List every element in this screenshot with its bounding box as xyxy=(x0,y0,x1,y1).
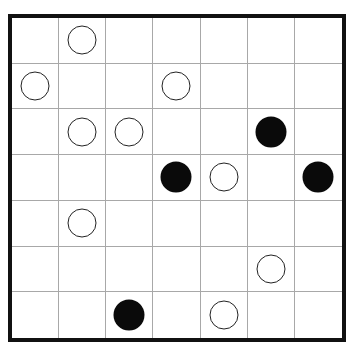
grid-cell-r5-c2[interactable] xyxy=(106,247,153,293)
white-circle-icon xyxy=(21,72,50,101)
grid-cell-r6-c6[interactable] xyxy=(295,292,342,338)
grid-cell-r5-c0[interactable] xyxy=(12,247,59,293)
grid-cell-r3-c0[interactable] xyxy=(12,155,59,201)
grid-cell-r4-c2[interactable] xyxy=(106,201,153,247)
grid-cell-r4-c6[interactable] xyxy=(295,201,342,247)
grid-cell-r5-c1[interactable] xyxy=(59,247,106,293)
grid-cell-r6-c3[interactable] xyxy=(153,292,200,338)
black-circle-icon xyxy=(255,116,286,147)
white-circle-icon xyxy=(68,26,97,55)
grid-cell-r2-c5[interactable] xyxy=(248,109,295,155)
grid-cell-r1-c5[interactable] xyxy=(248,64,295,110)
grid-cell-r1-c0[interactable] xyxy=(12,64,59,110)
grid-cell-r2-c4[interactable] xyxy=(201,109,248,155)
grid-cell-r1-c3[interactable] xyxy=(153,64,200,110)
grid-cell-r1-c1[interactable] xyxy=(59,64,106,110)
grid-cell-r1-c2[interactable] xyxy=(106,64,153,110)
black-circle-icon xyxy=(161,162,192,193)
grid-cell-r2-c3[interactable] xyxy=(153,109,200,155)
grid-cell-r1-c6[interactable] xyxy=(295,64,342,110)
grid-cell-r1-c4[interactable] xyxy=(201,64,248,110)
grid-cell-r4-c4[interactable] xyxy=(201,201,248,247)
grid-cell-r3-c4[interactable] xyxy=(201,155,248,201)
grid-cell-r3-c3[interactable] xyxy=(153,155,200,201)
white-circle-icon xyxy=(209,301,238,330)
grid-cell-r5-c3[interactable] xyxy=(153,247,200,293)
grid-cell-r0-c1[interactable] xyxy=(59,18,106,64)
grid-cell-r6-c5[interactable] xyxy=(248,292,295,338)
grid-cell-r3-c1[interactable] xyxy=(59,155,106,201)
grid-cell-r2-c0[interactable] xyxy=(12,109,59,155)
grid-cell-r6-c1[interactable] xyxy=(59,292,106,338)
grid-cell-r3-c5[interactable] xyxy=(248,155,295,201)
grid-cell-r6-c2[interactable] xyxy=(106,292,153,338)
black-circle-icon xyxy=(303,162,334,193)
grid-cell-r3-c6[interactable] xyxy=(295,155,342,201)
white-circle-icon xyxy=(68,117,97,146)
grid-cell-r0-c0[interactable] xyxy=(12,18,59,64)
white-circle-icon xyxy=(209,163,238,192)
white-circle-icon xyxy=(162,72,191,101)
grid-cell-r5-c5[interactable] xyxy=(248,247,295,293)
grid-cell-r6-c0[interactable] xyxy=(12,292,59,338)
grid-cell-r5-c6[interactable] xyxy=(295,247,342,293)
grid-cell-r2-c1[interactable] xyxy=(59,109,106,155)
white-circle-icon xyxy=(256,254,285,283)
grid-cell-r0-c5[interactable] xyxy=(248,18,295,64)
puzzle-grid xyxy=(8,14,346,342)
grid-cell-r3-c2[interactable] xyxy=(106,155,153,201)
grid-cell-r4-c5[interactable] xyxy=(248,201,295,247)
grid-cell-r4-c0[interactable] xyxy=(12,201,59,247)
grid-cell-r0-c4[interactable] xyxy=(201,18,248,64)
grid-cell-r2-c6[interactable] xyxy=(295,109,342,155)
grid-cell-r4-c3[interactable] xyxy=(153,201,200,247)
grid-cell-r2-c2[interactable] xyxy=(106,109,153,155)
white-circle-icon xyxy=(68,209,97,238)
grid-cell-r4-c1[interactable] xyxy=(59,201,106,247)
grid-cell-r0-c3[interactable] xyxy=(153,18,200,64)
grid-cell-r6-c4[interactable] xyxy=(201,292,248,338)
white-circle-icon xyxy=(115,117,144,146)
grid-cell-r0-c2[interactable] xyxy=(106,18,153,64)
grid-cell-r0-c6[interactable] xyxy=(295,18,342,64)
black-circle-icon xyxy=(114,300,145,331)
grid-cell-r5-c4[interactable] xyxy=(201,247,248,293)
